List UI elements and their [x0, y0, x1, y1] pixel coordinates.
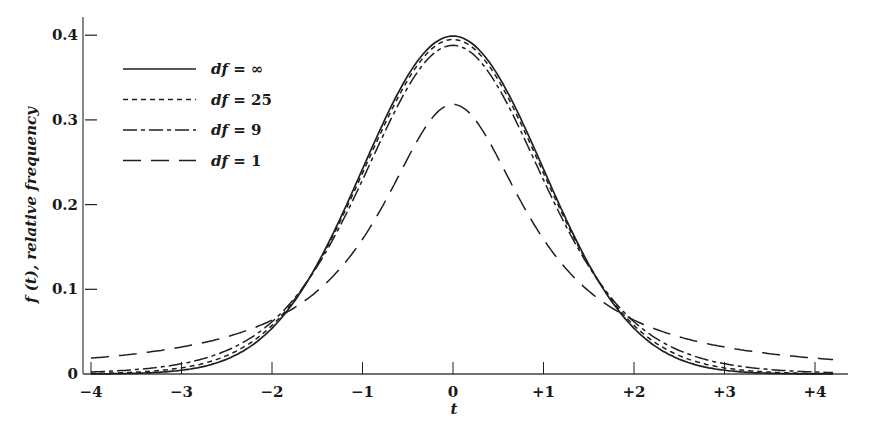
y-tick-label: 0.3 — [52, 111, 78, 129]
x-tick-label: −4 — [79, 383, 102, 401]
y-tick-label: 0.1 — [52, 280, 78, 298]
curve-short-dash — [91, 40, 833, 374]
legend-label: df = 1 — [211, 152, 261, 170]
x-tick-label: +1 — [532, 383, 555, 401]
x-tick-label: +4 — [803, 383, 826, 401]
x-tick-label: +2 — [622, 383, 645, 401]
plot-curves — [91, 36, 833, 374]
legend-label: df = 25 — [211, 91, 272, 109]
t-distribution-chart: 00.10.20.30.4 −4−3−2−10+1+2+3+4 df = ∞df… — [0, 0, 869, 437]
y-axis: 00.10.20.30.4 — [52, 17, 97, 383]
x-tick-label: 0 — [448, 383, 458, 401]
curve-long-dash — [91, 104, 833, 359]
x-tick-label: +3 — [713, 383, 736, 401]
x-axis-title: t — [451, 400, 458, 418]
legend: df = ∞df = 25df = 9df = 1 — [123, 60, 272, 170]
x-tick-label: −3 — [170, 383, 193, 401]
x-tick-label: −2 — [260, 383, 283, 401]
y-axis-title: f (t), relative frequency — [22, 106, 40, 304]
curve-solid — [91, 36, 833, 374]
y-tick-label: 0 — [68, 365, 78, 383]
y-tick-label: 0.4 — [52, 26, 78, 44]
x-tick-label: −1 — [351, 383, 374, 401]
legend-label: df = ∞ — [211, 60, 263, 78]
legend-label: df = 9 — [211, 121, 261, 139]
curve-dash-dot — [91, 45, 833, 372]
y-tick-label: 0.2 — [52, 196, 78, 214]
